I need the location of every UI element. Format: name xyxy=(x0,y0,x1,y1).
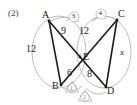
angle-marker-1: 1 xyxy=(70,85,73,91)
chord-AD xyxy=(49,21,106,87)
geometry-figure: (2) A C B D E 12 9 12 6 8 x 3 4 1 2 xyxy=(0,0,137,105)
figure-canvas xyxy=(0,0,137,105)
vertex-label-E: E xyxy=(83,52,89,62)
angle-marker-2: 2 xyxy=(83,94,86,100)
length-label-AB: 12 xyxy=(26,44,36,54)
length-label-AE: 9 xyxy=(61,26,66,36)
vertex-label-A: A xyxy=(42,10,49,20)
length-label-BE: 6 xyxy=(67,68,72,78)
length-label-CE: 12 xyxy=(79,26,89,36)
vertex-dot-B xyxy=(60,84,63,87)
vertex-label-D: D xyxy=(107,86,114,96)
right-arc-bottom xyxy=(86,88,106,94)
segment-AB xyxy=(49,21,61,85)
vertex-dot-E xyxy=(79,56,82,59)
angle-marker-3: 3 xyxy=(72,13,76,20)
length-label-ED: 8 xyxy=(87,69,92,79)
problem-number: (2) xyxy=(8,9,19,18)
vertex-label-C: C xyxy=(118,9,125,19)
angle-marker-4: 4 xyxy=(99,10,103,17)
vertex-dot-A xyxy=(48,20,51,23)
vertex-dot-C xyxy=(116,19,119,22)
vertex-label-B: B xyxy=(52,81,59,91)
length-label-CD: x xyxy=(120,48,124,57)
